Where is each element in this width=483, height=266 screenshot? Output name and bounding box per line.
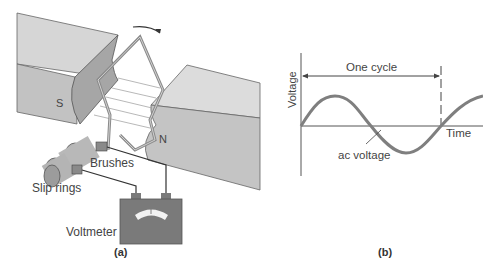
label-s: S xyxy=(56,97,63,109)
label-ac-voltage: ac voltage xyxy=(338,149,390,161)
brush-lower xyxy=(72,165,82,174)
label-time: Time xyxy=(446,127,471,139)
arrow-right-icon xyxy=(434,74,440,79)
wire-lower xyxy=(82,170,136,195)
generator-diagram: S N Brushes Slip rings Voltmeter (a) One… xyxy=(0,0,483,266)
label-one-cycle: One cycle xyxy=(346,61,397,73)
label-n: N xyxy=(159,133,167,145)
caption-a: (a) xyxy=(114,246,128,258)
voltmeter xyxy=(120,193,182,244)
figure-a: S N Brushes Slip rings Voltmeter (a) xyxy=(17,13,260,258)
south-magnet-side xyxy=(17,64,77,124)
arrow-left-icon xyxy=(302,74,308,79)
label-voltage: Voltage xyxy=(286,71,298,108)
label-voltmeter: Voltmeter xyxy=(66,225,117,239)
caption-b: (b) xyxy=(378,246,392,258)
north-pole-face xyxy=(145,105,260,190)
label-slip-rings: Slip rings xyxy=(32,181,81,195)
rotation-arrow-icon xyxy=(133,27,160,33)
ac-voltage-curve xyxy=(301,96,483,153)
label-brushes: Brushes xyxy=(90,156,134,170)
brush-upper xyxy=(96,142,107,151)
figure-b: One cycle Time ac voltage Voltage (b) xyxy=(286,53,483,258)
